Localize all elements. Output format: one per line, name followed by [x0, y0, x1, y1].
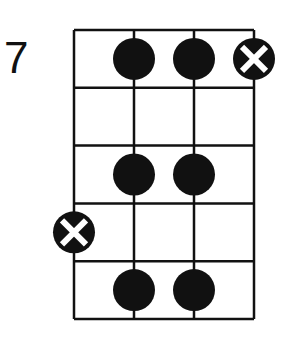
- fretboard: [0, 0, 285, 337]
- note-dot: [173, 38, 215, 80]
- note-dot: [113, 38, 155, 80]
- note-dot: [173, 154, 215, 196]
- note-dot: [113, 154, 155, 196]
- note-dot: [173, 269, 215, 311]
- note-dot: [113, 269, 155, 311]
